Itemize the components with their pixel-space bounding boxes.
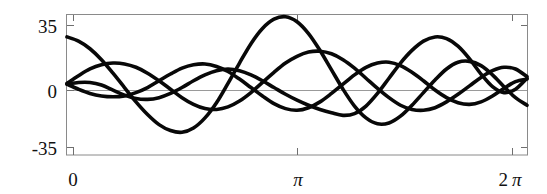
x-tick-label-0: 0 [68, 169, 78, 190]
plot-frame [67, 15, 528, 156]
x-tick-label-2pi-number: 2 [499, 169, 509, 190]
x-tick-marks [74, 15, 513, 155]
y-tick-label-0: 0 [48, 81, 58, 102]
curve-group [67, 17, 527, 133]
x-tick-label-pi: π [293, 169, 303, 190]
y-tick-label-35: 35 [38, 16, 57, 37]
y-tick-marks [67, 26, 527, 148]
plot-figure: 35 0 -35 0 π 2 π [0, 0, 547, 194]
y-tick-label-minus35: -35 [32, 138, 57, 159]
curve-1-path [67, 17, 527, 133]
oscillation-line-chart: 35 0 -35 0 π 2 π [0, 0, 547, 194]
x-tick-label-2pi-symbol: π [512, 169, 522, 190]
